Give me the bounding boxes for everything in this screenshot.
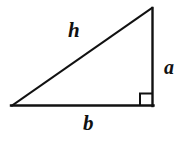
hypotenuse-label: h	[68, 20, 80, 41]
horizontal-leg-label: b	[83, 113, 94, 134]
right-angle-square-icon	[140, 94, 152, 106]
hypotenuse-line	[12, 8, 152, 106]
vertical-leg-label: a	[164, 57, 174, 77]
right-triangle-figure: h a b	[0, 0, 182, 141]
